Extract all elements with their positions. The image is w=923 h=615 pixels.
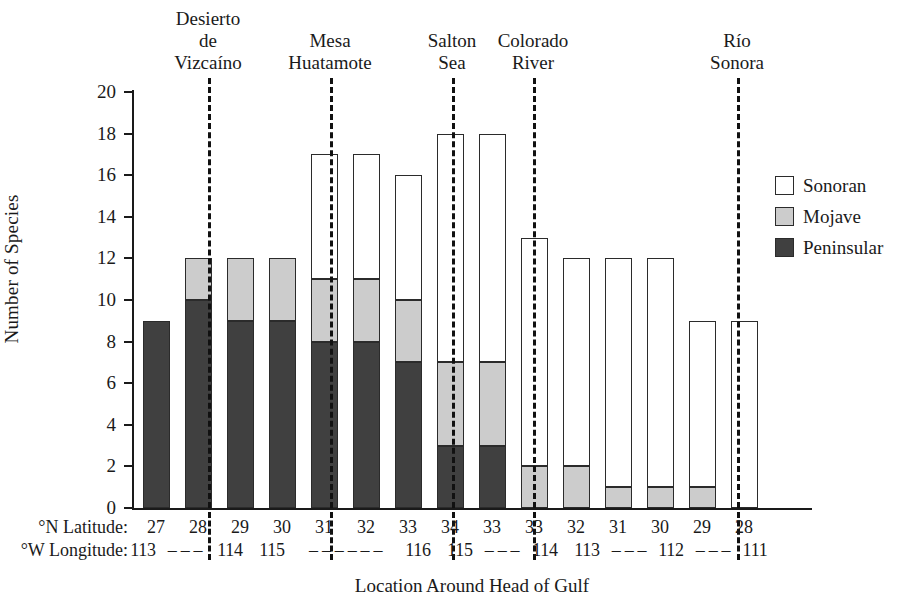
latitude-value: 30 [261,518,303,536]
region-label: ColoradoRiver [458,30,608,74]
region-divider [330,78,333,508]
bar-segment-mojave [437,362,464,445]
y-tick-label: 0 [6,498,116,517]
bar-segment-peninsular [353,342,380,508]
bar-13 [689,321,716,508]
legend-label: Mojave [803,206,861,228]
bar-segment-peninsular [479,446,506,508]
latitude-value: 31 [597,518,639,536]
region-divider [208,78,211,508]
bar-segment-peninsular [437,446,464,508]
bar-5 [353,154,380,508]
bar-segment-peninsular [311,342,338,508]
region-label-line: Desierto [133,8,283,30]
plot-area [132,92,760,508]
region-divider [533,78,536,508]
x-axis-title: Location Around Head of Gulf [132,575,812,597]
bar-segment-peninsular [395,362,422,508]
bar-segment-mojave [647,487,674,508]
latitude-row-label: °N Latitude: [0,518,128,536]
legend-item: Sonoran [775,170,883,201]
bar-segment-peninsular [143,321,170,508]
bar-segment-mojave [479,362,506,445]
bar-7 [437,134,464,508]
bar-segment-peninsular [269,321,296,508]
bar-segment-sonoran [563,258,590,466]
latitude-value: 30 [639,518,681,536]
bar-segment-sonoran [479,134,506,363]
latitude-value: 27 [135,518,177,536]
bar-11 [605,258,632,508]
bar-segment-mojave [227,258,254,320]
legend-swatch-mojave [775,207,794,226]
bar-segment-sonoran [731,321,758,508]
bar-segment-mojave [605,487,632,508]
bar-segment-sonoran [605,258,632,487]
legend-item: Mojave [775,201,883,232]
region-label-line: River [458,52,608,74]
bar-segment-mojave [689,487,716,508]
legend-item: Peninsular [775,232,883,263]
latitude-value: 34 [429,518,471,536]
region-label-line: Río [662,30,812,52]
longitude-value: 111 [719,541,791,559]
legend-label: Sonoran [803,175,866,197]
bar-segment-sonoran [437,134,464,363]
bar-0 [143,321,170,508]
legend-swatch-peninsular [775,238,794,257]
bar-6 [395,175,422,508]
bar-segment-peninsular [227,321,254,508]
bar-segment-sonoran [395,175,422,300]
x-axis-line [132,508,812,510]
latitude-value: 32 [345,518,387,536]
region-divider [737,78,740,508]
latitude-value: 33 [513,518,555,536]
bar-4 [311,154,338,508]
bar-segment-mojave [269,258,296,320]
bar-segment-mojave [311,279,338,341]
bar-8 [479,134,506,508]
latitude-value: 28 [177,518,219,536]
latitude-value: 28 [723,518,765,536]
legend-label: Peninsular [803,237,883,259]
latitude-value: 29 [681,518,723,536]
chart-figure: 02468101214161820 Number of Species Desi… [0,0,923,615]
latitude-value: 33 [387,518,429,536]
region-label-line: Colorado [458,30,608,52]
region-divider [452,78,455,508]
longitude-value: 115 [236,541,308,559]
bar-segment-mojave [563,466,590,508]
bar-12 [647,258,674,508]
region-label-line: Sonora [662,52,812,74]
legend: SonoranMojavePeninsular [775,170,883,263]
bar-14 [731,321,758,508]
y-tick-label: 2 [6,456,116,475]
latitude-value: 31 [303,518,345,536]
bar-segment-sonoran [311,154,338,279]
bar-segment-sonoran [353,154,380,279]
bar-segment-mojave [395,300,422,362]
latitude-value: 32 [555,518,597,536]
bar-segment-sonoran [647,258,674,487]
bar-segment-sonoran [689,321,716,487]
bar-segment-mojave [353,279,380,341]
y-axis-title: Number of Species [1,89,23,449]
legend-swatch-sonoran [775,176,794,195]
bar-3 [269,258,296,508]
bar-2 [227,258,254,508]
bar-10 [563,258,590,508]
latitude-value: 29 [219,518,261,536]
region-label: RíoSonora [662,30,812,74]
latitude-value: 33 [471,518,513,536]
longitude-value: – – – – – – [309,541,381,559]
